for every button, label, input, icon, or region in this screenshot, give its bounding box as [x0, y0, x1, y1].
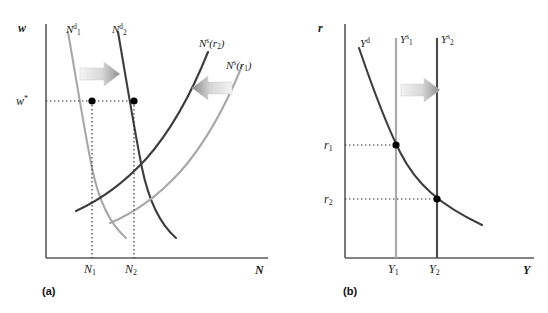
panel-b-plot: [345, 24, 534, 258]
figure-canvas: [0, 0, 548, 313]
panel-a-y-axis-label: w: [18, 22, 26, 34]
yd-superscript: d: [366, 37, 370, 45]
panel-a-wstar-label: w*: [16, 95, 28, 107]
labour-demand-2-label: Nd2: [112, 24, 127, 37]
nd2-subscript: 2: [123, 29, 127, 37]
labour-demand-curve-1: [68, 32, 126, 238]
panel-a-equilibrium-point-1: [88, 97, 95, 104]
ys1-subscript: 1: [409, 39, 413, 47]
output-demand-label: Yd: [360, 38, 370, 49]
panel-b-y2-label: Y2: [429, 263, 440, 277]
panel-b-equilibrium-point-1: [392, 141, 399, 148]
labour-supply-r2-label: Ns(r2): [199, 38, 224, 51]
economics-figure: w N w* N1 N2 Nd1 Nd2 Ns(r2) Ns(r1) (a) r…: [0, 0, 548, 313]
panel-a-equilibrium-point-2: [130, 97, 137, 104]
wstar-superscript: *: [24, 94, 28, 103]
panel-b-r1-label: r1: [324, 139, 333, 153]
labour-demand-curve-2: [118, 32, 176, 238]
r2-subscript: 2: [329, 198, 333, 207]
panel-a-x-axis-label: N: [255, 264, 264, 276]
panel-b-y-axis-label: r: [318, 22, 323, 34]
nd1-subscript: 1: [77, 29, 81, 37]
panel-b-r2-label: r2: [324, 193, 333, 207]
labour-demand-1-label: Nd1: [66, 24, 81, 37]
panel-b-y1-label: Y1: [388, 263, 399, 277]
labour-supply-r1-label: Ns(r1): [226, 60, 251, 73]
y1-subscript: 1: [395, 268, 399, 277]
r1-subscript: 1: [329, 144, 333, 153]
n2-subscript: 2: [133, 268, 137, 277]
panel-b-caption: (b): [343, 285, 357, 297]
panel-a-caption: (a): [42, 285, 55, 297]
output-supply-1-label: Ys1: [400, 34, 413, 47]
y2-subscript: 2: [436, 268, 440, 277]
n1-subscript: 1: [92, 268, 96, 277]
panel-a-supply-shift-arrow: [192, 76, 232, 100]
panel-b-output-shift-arrow: [401, 78, 440, 102]
panel-a-n1-label: N1: [84, 263, 96, 277]
panel-a-n2-label: N2: [125, 263, 137, 277]
panel-b-x-axis-label: Y: [523, 264, 530, 276]
ys2-subscript: 2: [450, 39, 454, 47]
panel-a-demand-shift-arrow: [80, 62, 120, 86]
panel-b-equilibrium-point-2: [433, 195, 440, 202]
output-supply-2-label: Ys2: [441, 34, 454, 47]
